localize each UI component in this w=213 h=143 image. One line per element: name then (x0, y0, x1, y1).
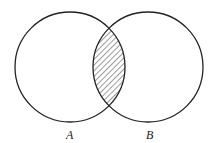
set-a-label: A (65, 128, 74, 142)
venn-diagram: A B (0, 0, 213, 143)
set-b-label: B (146, 128, 154, 142)
